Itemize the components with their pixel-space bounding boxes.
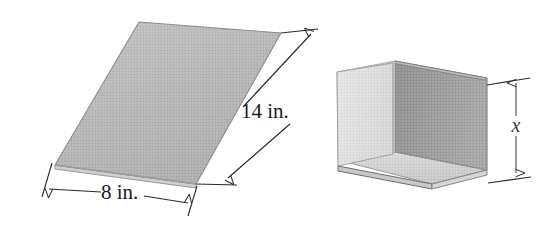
figure-container: 14 in. 8 in.: [0, 0, 552, 228]
dim-x-top-extension-tick: [487, 78, 530, 85]
dimension-label-14in: 14 in.: [241, 99, 289, 123]
dim-x-bottom-extension-tick: [488, 177, 531, 183]
dimension-label-8in: 8 in.: [101, 180, 138, 204]
dim-14in-line-lower: [228, 124, 290, 178]
dimension-x: x: [487, 78, 531, 183]
geometry-figure: 14 in. 8 in.: [0, 0, 552, 228]
dim-8in-right-extension-tick: [188, 186, 197, 216]
dim-14in-upper-extension-tick: [281, 29, 318, 33]
u-channel-shape: [337, 61, 487, 189]
dim-8in-line-left: [49, 189, 101, 192]
dim-8in-line-right: [144, 196, 188, 203]
dimension-label-x: x: [511, 114, 521, 136]
dim-14in-lower-extension-tick: [196, 184, 237, 185]
dim-8in-left-extension-tick: [42, 163, 52, 197]
channel-front-wall-texture: [337, 63, 393, 166]
